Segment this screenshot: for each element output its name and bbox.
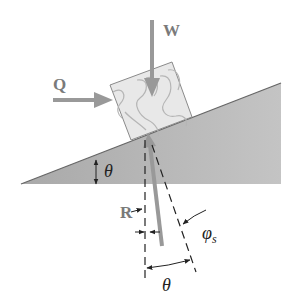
phi-subscript: s xyxy=(212,232,217,246)
friction-angle-label: φs xyxy=(202,223,217,246)
incline-angle-label: θ xyxy=(104,161,113,181)
applied-force-arrow xyxy=(53,92,113,108)
bottom-angle-arc xyxy=(147,260,190,268)
incline-diagram: W Q R φs θ θ xyxy=(0,0,292,303)
bottom-angle-label: θ xyxy=(162,275,171,295)
weight-label: W xyxy=(163,21,180,40)
friction-angle-indicator xyxy=(183,210,206,224)
phi-symbol: φ xyxy=(202,223,212,243)
applied-force-label: Q xyxy=(53,75,66,94)
reaction-label: R xyxy=(120,203,133,222)
